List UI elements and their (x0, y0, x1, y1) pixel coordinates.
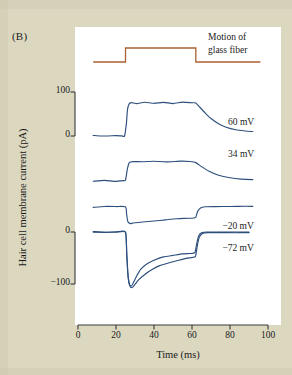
chart-canvas (0, 0, 292, 375)
y-tick-label: 0 (40, 225, 70, 235)
current-trace (93, 231, 249, 288)
x-tick-label: 60 (180, 330, 204, 340)
y-tick-label: 100 (40, 85, 70, 95)
trace-label: 34 mV (228, 149, 254, 159)
y-axis-label: Hair cell membrane current (pA) (17, 113, 28, 283)
trace-label: 60 mV (228, 117, 254, 127)
current-trace (93, 161, 253, 181)
x-tick-label: 80 (218, 330, 242, 340)
x-axis-label: Time (ms) (75, 349, 281, 360)
x-tick-label: 40 (142, 330, 166, 340)
stimulus-caption-line2: glass fiber (208, 44, 247, 57)
x-tick-label: 20 (104, 330, 128, 340)
y-tick-label: 0 (40, 129, 70, 139)
axes-layer (71, 92, 269, 330)
stimulus-caption-line1: Motion of (208, 31, 247, 44)
trace-label: −20 mV (222, 221, 253, 231)
y-tick-label: −100 (40, 277, 70, 287)
figure-panel-b: (B) Motion of glass fiber Time (ms) Hair… (0, 0, 292, 375)
x-tick-label: 100 (256, 330, 280, 340)
x-tick-label: 0 (66, 330, 90, 340)
stimulus-caption: Motion of glass fiber (208, 31, 247, 56)
current-traces-layer (93, 102, 253, 288)
current-trace (93, 231, 249, 286)
trace-label: −72 mV (222, 243, 253, 253)
